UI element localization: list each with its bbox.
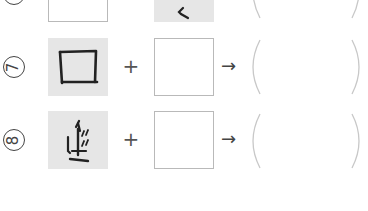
row6-right-component-box bbox=[154, 0, 214, 22]
row6-plus-sign: + bbox=[121, 0, 141, 2]
question-number-8-text: 8 bbox=[6, 135, 21, 145]
row7-left-component-box bbox=[48, 38, 108, 96]
kanji-component-icon bbox=[48, 111, 108, 169]
row8-right-answer-box[interactable] bbox=[154, 111, 214, 169]
row8-left-component-box bbox=[48, 111, 108, 169]
row7-parentheses-icon bbox=[248, 38, 364, 96]
question-number-7-text: 7 bbox=[6, 62, 21, 72]
row7-arrow: → bbox=[221, 57, 236, 75]
question-number-7: 7 bbox=[3, 56, 25, 78]
row8-plus-sign: + bbox=[121, 129, 141, 149]
row6-parentheses-icon bbox=[248, 0, 364, 20]
row6-answer-parentheses[interactable] bbox=[248, 0, 364, 20]
row7-answer-parentheses[interactable] bbox=[248, 38, 364, 96]
row7-right-answer-box[interactable] bbox=[154, 38, 214, 96]
row8-parentheses-icon bbox=[248, 112, 364, 170]
row6-left-answer-box[interactable] bbox=[48, 0, 108, 22]
row8-arrow: → bbox=[221, 130, 236, 148]
row6-stroke-fragment-icon bbox=[154, 0, 214, 22]
question-number-6: 6 bbox=[3, 0, 25, 5]
question-number-8: 8 bbox=[3, 129, 25, 151]
mouth-radical-icon bbox=[48, 38, 108, 96]
row8-answer-parentheses[interactable] bbox=[248, 112, 364, 170]
row7-plus-sign: + bbox=[121, 56, 141, 76]
